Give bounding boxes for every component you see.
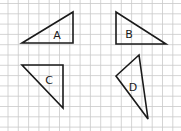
grid-diagram: A B C D (0, 0, 181, 131)
triangle-b: B (116, 12, 166, 44)
triangle-a-shape (22, 12, 73, 43)
triangle-a: A (22, 12, 73, 43)
triangle-b-shape (116, 12, 166, 44)
triangle-a-label: A (53, 29, 61, 42)
triangle-d-label: D (129, 81, 137, 94)
triangle-c-shape (22, 65, 63, 108)
triangle-c-label: C (45, 74, 53, 87)
triangle-b-label: B (125, 28, 133, 41)
graph-paper: A B C D (0, 0, 181, 131)
triangle-c: C (22, 65, 63, 108)
